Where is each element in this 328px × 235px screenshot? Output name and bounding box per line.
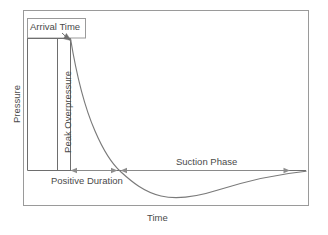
- positive-duration-left-arrowhead-icon: [71, 168, 78, 173]
- positive-duration-right-arrowhead-icon: [111, 168, 118, 173]
- y-axis-label-wrap: Pressure: [12, 59, 26, 149]
- y-axis-label: Pressure: [12, 59, 22, 149]
- suction-phase-label: Suction Phase: [176, 157, 237, 167]
- diagram-canvas: [0, 0, 328, 235]
- x-axis-label: Time: [147, 213, 168, 223]
- peak-overpressure-label-wrap: Peak Overpressure: [63, 57, 77, 167]
- positive-duration-label: Positive Duration: [51, 176, 123, 186]
- blast-wave-diagram: Arrival Time Pressure Peak Overpressure …: [0, 0, 328, 235]
- pressure-waveform-curve: [71, 39, 307, 198]
- arrival-time-arrowhead-icon: [64, 33, 72, 40]
- suction-phase-right-arrowhead-icon: [284, 168, 291, 173]
- peak-overpressure-label: Peak Overpressure: [63, 57, 73, 167]
- arrival-time-label: Arrival Time: [30, 22, 80, 32]
